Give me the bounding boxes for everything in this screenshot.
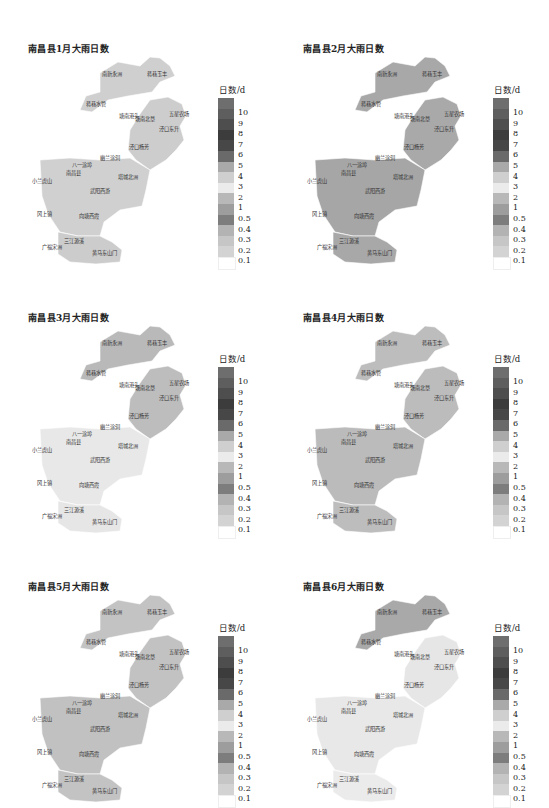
station-label: 泾口东升 [159,394,179,401]
legend-tick: 6 [513,150,526,161]
legend-title: 日数/d [219,352,270,364]
legend-band [493,668,509,679]
legend-tick: 9 [513,119,526,130]
legend-band [493,710,509,721]
legend-tick: 1 [238,203,251,214]
legend-band [493,162,509,173]
station-label: 广福宋洲 [42,512,62,519]
station-label: 广福宋洲 [42,243,62,250]
legend-tick: 0.4 [238,763,251,774]
station-label: 武阳西游 [90,725,110,732]
legend-tick: 7 [238,409,251,420]
station-label: 蒋巷玉丰 [147,339,167,346]
region-central [315,696,425,774]
legend-band [218,183,234,194]
legend-tick: 0.5 [513,483,526,494]
legend-tick: 9 [238,657,251,668]
legend-tick: 0.3 [513,504,526,515]
legend-tick: 3 [238,182,251,193]
legend-band [218,484,234,495]
station-label: 三江源溪 [64,237,84,244]
legend-tick: 7 [513,409,526,420]
panel-title: 南昌县1月大雨日数 [28,42,109,55]
panel-title: 南昌县3月大雨日数 [28,311,109,324]
station-label: 向塘西霞 [79,212,99,219]
legend-tick: 9 [513,388,526,399]
legend-band [493,484,509,495]
legend-tick: 0.3 [238,235,251,246]
legend-tick: 0.4 [513,225,526,236]
station-label: 八一涂埠 [72,699,92,706]
station-label: 五星农场 [444,379,464,386]
station-label: 南昌县 [341,438,356,445]
station-label: 泾口杨芳 [129,143,149,150]
legend-band [218,636,234,647]
legend-colorbar [493,98,509,270]
station-label: 冈上镇 [312,479,327,486]
legend-tick: 0.2 [513,246,526,257]
station-label: 塘南北垦 [135,384,155,391]
legend-band [493,795,511,808]
map-panel-3: 南昌县3月大雨日数 南新永洲蒋巷玉丰蒋巷水管塘南港头塘南北垦五星农场泾口东升泾口… [0,269,274,537]
station-label: 蒋巷玉丰 [422,70,442,77]
station-label: 南新永洲 [102,608,122,615]
legend-tick: 0.5 [513,752,526,763]
region-east [403,366,461,439]
station-label: 蒋巷水管 [86,638,106,645]
legend-band [218,647,234,658]
legend-tick: 0.2 [238,784,251,795]
station-label: 幽兰涂洞 [375,423,395,430]
station-label: 幽兰涂洞 [375,154,395,161]
station-label: 黄马东山门 [92,249,117,256]
station-label: 八一涂埠 [72,430,92,437]
legend-band [493,98,509,109]
legend-tick: 0.4 [238,494,251,505]
legend-colorbar [218,636,234,808]
legend-band [493,388,509,399]
legend-band [493,647,509,658]
legend-band [493,700,509,711]
legend-band [218,721,234,732]
station-label: 向塘西霞 [354,481,374,488]
legend-ticks: 109876543210.50.40.30.20.1 [513,377,526,536]
legend-colorbar [493,636,509,808]
legend-colorbar [493,367,509,539]
station-label: 泾口东升 [434,663,454,670]
legend-tick: 4 [238,710,251,721]
station-label: 冈上镇 [37,748,52,755]
legend-band [218,700,234,711]
legend-band [493,721,509,732]
station-label: 八一涂埠 [347,699,367,706]
legend-band [218,225,234,236]
legend-tick: 1 [513,203,526,214]
station-label: 蒋巷水管 [86,100,106,107]
station-label: 三江源溪 [64,506,84,513]
legend-tick: 0.3 [238,773,251,784]
legend-band [493,462,509,473]
legend-band [218,98,234,109]
station-label: 三江源溪 [339,775,359,782]
legend-band [218,505,234,516]
legend-ticks: 109876543210.50.40.30.20.1 [238,377,251,536]
legend-tick: 8 [238,667,251,678]
map-panel-2: 南昌县2月大雨日数 南新永洲蒋巷玉丰蒋巷水管塘南港头塘南北垦五星农场泾口东升泾口… [275,0,549,268]
legend-band [218,109,234,120]
legend-title: 日数/d [219,83,270,95]
legend-tick: 5 [513,699,526,710]
legend-tick: 8 [238,129,251,140]
legend-band [493,246,509,257]
region-east [403,97,461,170]
station-label: 南新永洲 [377,70,397,77]
legend-band [218,431,234,442]
legend-band [493,130,509,141]
station-label: 小兰虎山 [307,446,327,453]
station-label: 五星农场 [169,648,189,655]
legend-band [493,526,511,539]
legend-tick: 3 [513,182,526,193]
legend-band [493,678,509,689]
legend-tick: 5 [238,161,251,172]
station-label: 幽兰涂洞 [100,423,120,430]
panel-title: 南昌县4月大雨日数 [303,311,384,324]
station-label: 蒋巷玉丰 [422,608,442,615]
station-label: 向塘西霞 [79,750,99,757]
